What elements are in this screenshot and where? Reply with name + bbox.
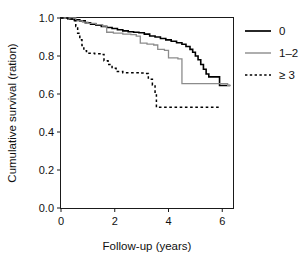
x-tick-label: 0 [58,215,64,227]
series-line->=3 [61,18,221,107]
survival-chart-figure: 0.00.20.40.60.81.0 0246 Follow-up (years… [0,0,306,261]
chart-legend: 01–2≥ 3 [245,25,298,81]
y-tick-label: 0.0 [39,202,54,214]
x-axis-ticks: 0246 [58,208,225,227]
plot-frame [61,18,234,209]
y-tick-label: 1.0 [39,12,54,24]
y-axis-title: Cumulative survival (ration) [6,43,18,182]
x-tick-label: 6 [219,215,225,227]
chart-canvas: 0.00.20.40.60.81.0 0246 Follow-up (years… [0,0,306,261]
y-tick-label: 0.8 [39,50,54,62]
data-series-group [61,18,230,107]
y-axis-ticks: 0.00.20.40.60.81.0 [39,12,61,214]
legend-label-0: 0 [279,25,285,37]
legend-label->=3: ≥ 3 [279,69,295,81]
x-tick-label: 4 [165,215,171,227]
y-tick-label: 0.6 [39,88,54,100]
y-tick-label: 0.2 [39,164,54,176]
x-axis-title: Follow-up (years) [103,240,192,252]
x-tick-label: 2 [112,215,118,227]
y-tick-label: 0.4 [39,126,54,138]
legend-label-1-2: 1–2 [279,47,298,59]
